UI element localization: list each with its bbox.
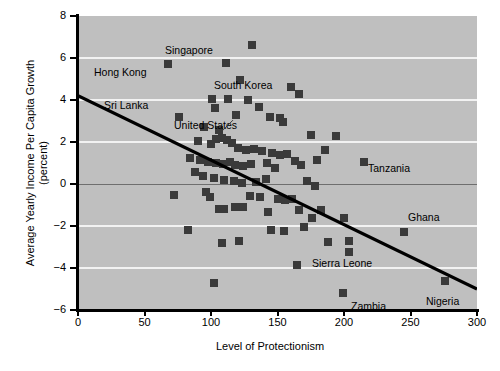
y-tick (70, 183, 76, 185)
y-tick-label: 8 (36, 10, 66, 21)
point-label-ghana: Ghana (408, 212, 440, 223)
x-tick-label: 50 (125, 317, 165, 328)
point-label-zambia: Zambia (351, 301, 386, 312)
x-tick-label: 0 (58, 317, 98, 328)
trend-line (78, 16, 477, 310)
x-tick-label: 250 (391, 317, 431, 328)
x-tick-label: 100 (191, 317, 231, 328)
point-label-nigeria: Nigeria (426, 296, 459, 307)
point-label-sierra-leone: Sierra Leone (312, 258, 372, 269)
x-axis-label: Level of Protectionism (180, 340, 360, 352)
y-axis-line (76, 14, 79, 312)
y-tick (70, 267, 76, 269)
plot-area (78, 16, 477, 310)
point-label-south-korea: South Korea (214, 80, 272, 91)
point-label-tanzania: Tanzania (368, 163, 410, 174)
y-tick (70, 57, 76, 59)
y-tick (70, 141, 76, 143)
x-tick-label: 150 (258, 317, 298, 328)
y-tick (70, 309, 76, 311)
point-label-hong-kong: Hong Kong (94, 67, 147, 78)
y-tick (70, 99, 76, 101)
x-tick-label: 200 (324, 317, 364, 328)
point-label-united-states: United States (174, 120, 237, 131)
y-tick (70, 225, 76, 227)
x-tick-label: 300 (457, 317, 497, 328)
scatter-plot-figure: −6−4−202468 050100150200250300 Hong Kong… (0, 0, 500, 371)
point-label-singapore: Singapore (165, 45, 213, 56)
y-tick (70, 15, 76, 17)
y-tick-label: −6 (36, 304, 66, 315)
y-axis-label: Average Yearly Income Per Capita Growth … (24, 38, 50, 288)
point-label-sri-lanka: Sri Lanka (104, 100, 148, 111)
